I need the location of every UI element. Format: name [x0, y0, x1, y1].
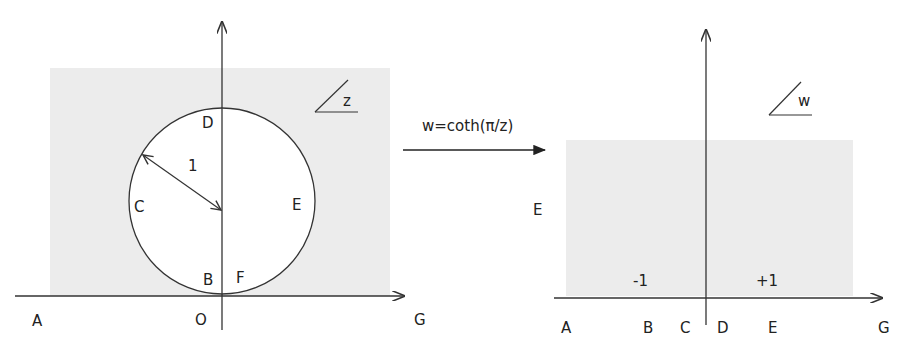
w-point-G: G [878, 319, 890, 337]
w-tick-minus-one: -1 [633, 272, 648, 290]
z-plane: 1 z D C E B F A O G [15, 22, 426, 330]
z-point-E: E [292, 196, 301, 214]
w-plane: w -1 +1 E A B C D E G [533, 30, 890, 337]
conformal-map-diagram: 1 z D C E B F A O G w=coth(π/z) w -1 +1 … [0, 0, 907, 363]
z-point-B: B [203, 271, 213, 289]
w-point-C: C [680, 319, 690, 337]
w-plane-icon: w [769, 82, 812, 115]
w-plane-label: w [798, 92, 810, 110]
z-point-F: F [236, 269, 245, 287]
z-point-O: O [195, 311, 207, 329]
radius-label: 1 [188, 157, 198, 175]
z-point-D: D [202, 114, 214, 132]
w-point-D: D [717, 319, 729, 337]
mapping-arrow: w=coth(π/z) [403, 117, 545, 150]
z-plane-label: z [343, 92, 351, 110]
w-point-E-left: E [533, 201, 542, 219]
w-shaded-region [566, 140, 853, 296]
z-point-G: G [414, 311, 426, 329]
w-point-E: E [768, 319, 777, 337]
mapping-formula: w=coth(π/z) [422, 117, 513, 135]
w-point-B: B [643, 319, 653, 337]
z-point-A: A [32, 312, 43, 330]
w-tick-plus-one: +1 [756, 272, 778, 290]
z-point-C: C [134, 198, 144, 216]
w-point-A: A [561, 319, 572, 337]
